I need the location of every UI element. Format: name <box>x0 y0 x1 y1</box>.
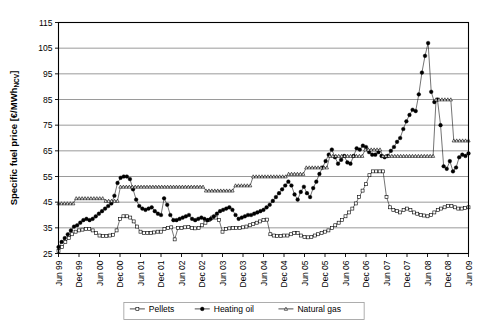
x-tick-label: Jun 07 <box>382 260 392 286</box>
y-tick-label: 55 <box>43 172 53 182</box>
x-tick-label: Dec 03 <box>238 260 248 287</box>
x-axis: Jun 99Dec 99Jun 00Dec 00Jun 01Dec 01Jun … <box>54 254 474 288</box>
svg-text:Specific fuel price [€/MWhNCV]: Specific fuel price [€/MWhNCV] <box>8 71 20 206</box>
y-tick-label: 85 <box>43 95 53 105</box>
y-tick-label: 95 <box>43 69 53 79</box>
y-tick-label: 35 <box>43 223 53 233</box>
x-tick-label: Dec 01 <box>156 260 166 287</box>
y-tick-label: 105 <box>38 43 52 53</box>
x-tick-label: Dec 08 <box>443 260 453 287</box>
x-tick-label: Jun 02 <box>177 260 187 286</box>
x-tick-label: Jun 05 <box>300 260 310 286</box>
y-tick-label: 25 <box>43 249 53 259</box>
x-tick-label: Jun 01 <box>136 260 146 286</box>
legend-label: Heating oil <box>214 304 254 314</box>
legend-label: Pellets <box>149 304 175 314</box>
x-tick-label: Dec 02 <box>197 260 207 287</box>
x-tick-label: Jun 00 <box>95 260 105 286</box>
x-tick-label: Dec 04 <box>279 260 289 287</box>
x-tick-label: Dec 00 <box>115 260 125 287</box>
y-tick-label: 45 <box>43 197 53 207</box>
legend-label: Natural gas <box>297 304 340 314</box>
y-tick-label: 65 <box>43 146 53 156</box>
gridlines <box>59 23 469 228</box>
y-axis: 2535455565758595105115 <box>38 18 58 259</box>
x-tick-label: Jun 03 <box>218 260 228 286</box>
chart-canvas: 2535455565758595105115Jun 99Dec 99Jun 00… <box>0 0 489 332</box>
legend: PelletsHeating oilNatural gas <box>124 303 364 320</box>
x-tick-label: Dec 05 <box>320 260 330 287</box>
y-axis-title: Specific fuel price [€/MWhNCV] <box>8 71 20 206</box>
y-tick-label: 75 <box>43 120 53 130</box>
x-tick-label: Jun 04 <box>259 260 269 286</box>
y-tick-label: 115 <box>39 18 53 28</box>
x-tick-label: Jun 06 <box>341 260 351 286</box>
x-tick-label: Jun 09 <box>464 260 474 286</box>
x-tick-label: Dec 06 <box>361 260 371 287</box>
x-tick-label: Dec 07 <box>402 260 412 287</box>
fuel-price-chart: 2535455565758595105115Jun 99Dec 99Jun 00… <box>0 0 489 332</box>
x-tick-label: Jun 99 <box>54 260 64 286</box>
x-tick-label: Jun 08 <box>423 260 433 286</box>
x-tick-label: Dec 99 <box>74 260 84 287</box>
